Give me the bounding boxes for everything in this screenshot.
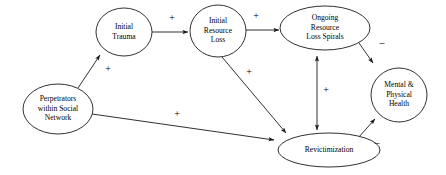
node-label-mental-physical-health: Physical [386, 90, 412, 99]
edge-sign-perpetrators-to-initial-trauma: + [105, 63, 111, 74]
edge-perpetrators-to-initial-trauma [78, 55, 100, 88]
node-perpetrators[interactable]: Perpetratorswithin SocialNetwork [23, 84, 93, 134]
node-label-ongoing-resource-loss-spirals: Resource [311, 23, 340, 32]
node-label-initial-trauma: Trauma [112, 32, 136, 41]
node-initial-trauma[interactable]: InitialTrauma [96, 8, 152, 56]
edge-revictimization-to-health [358, 119, 375, 138]
diagram-canvas: Perpetratorswithin SocialNetworkInitialT… [0, 0, 446, 175]
node-label-perpetrators: within Social [38, 104, 78, 113]
node-label-mental-physical-health: Health [389, 99, 409, 108]
node-label-perpetrators: Network [45, 113, 72, 122]
node-mental-physical-health[interactable]: Mental &PhysicalHealth [371, 68, 427, 122]
nodes-layer: Perpetratorswithin SocialNetworkInitialT… [23, 5, 427, 167]
edge-ongoing-spirals-to-health [359, 43, 373, 63]
edge-sign-revictimization-to-health: – [374, 137, 381, 148]
node-label-mental-physical-health: Mental & [384, 80, 413, 89]
edge-sign-initial-resource-loss-to-revictimization: + [246, 66, 252, 77]
edge-sign-perpetrators-to-revictimization: + [174, 108, 180, 119]
node-label-initial-trauma: Initial [115, 22, 133, 31]
node-label-ongoing-resource-loss-spirals: Ongoing [312, 13, 339, 22]
node-label-initial-resource-loss: Loss [211, 35, 225, 44]
node-label-revictimization: Revictimization [305, 145, 354, 154]
node-label-initial-resource-loss: Initial [209, 16, 227, 25]
edge-initial-resource-loss-to-revictimization [222, 57, 286, 133]
edge-sign-ongoing-spirals-revictimization: + [323, 84, 329, 95]
edge-perpetrators-to-revictimization [92, 114, 274, 140]
node-initial-resource-loss[interactable]: InitialResourceLoss [190, 5, 246, 57]
node-label-perpetrators: Perpetrators [40, 94, 77, 103]
node-label-initial-resource-loss: Resource [204, 26, 233, 35]
node-ongoing-resource-loss-spirals[interactable]: OngoingResourceLoss Spirals [280, 6, 370, 50]
edge-sign-ongoing-spirals-to-health: – [379, 37, 386, 48]
node-label-ongoing-resource-loss-spirals: Loss Spirals [306, 32, 343, 41]
edge-sign-initial-resource-loss-to-ongoing-spirals: + [253, 10, 259, 21]
edge-sign-initial-trauma-to-initial-resource-loss: + [169, 12, 175, 23]
node-revictimization[interactable]: Revictimization [278, 133, 380, 167]
diagram-root: Perpetratorswithin SocialNetworkInitialT… [0, 0, 446, 175]
